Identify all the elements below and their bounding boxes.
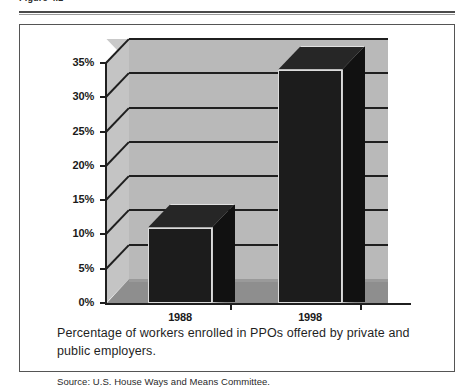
x-axis-label-1998: 1998: [265, 311, 355, 323]
x-axis-tick: [360, 303, 362, 310]
y-axis-label: 5%: [48, 262, 94, 274]
y-axis-label: 15%: [48, 193, 94, 205]
y-axis-label: 30%: [48, 90, 94, 102]
bar-side-face: [342, 46, 366, 303]
bar-1988: [148, 204, 235, 303]
x-axis-tick: [230, 303, 232, 310]
gridline: [129, 38, 388, 40]
figure-caption: Percentage of workers enrolled in PPOs o…: [57, 325, 427, 361]
header-rule-thin: [19, 14, 455, 15]
bar-1998: [278, 46, 365, 303]
header-rule-thick: [19, 11, 455, 13]
y-axis-label: 20%: [48, 159, 94, 171]
figure-header-label: Figure 4.2: [19, 0, 64, 3]
x-axis-label-1988: 1988: [135, 311, 225, 323]
y-axis-label: 10%: [48, 227, 94, 239]
y-axis-label: 25%: [48, 125, 94, 137]
figure-box: 0%5%10%15%20%25%30%35% 19881998 Percenta…: [19, 24, 455, 372]
y-axis-line: [105, 63, 107, 304]
y-axis-label: 35%: [48, 56, 94, 68]
bar-chart: 0%5%10%15%20%25%30%35% 19881998: [106, 39, 411, 311]
bar-front-face: [148, 228, 212, 303]
x-axis-line: [105, 303, 411, 305]
y-axis-label: 0%: [48, 296, 94, 308]
figure-source: Source: U.S. House Ways and Means Commit…: [57, 376, 437, 387]
bar-front-face: [278, 70, 342, 303]
